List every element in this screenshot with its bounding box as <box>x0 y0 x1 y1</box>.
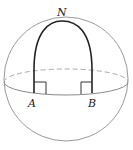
sphere-outline <box>4 17 128 141</box>
sphere-diagram: N A B <box>0 0 133 150</box>
right-angle-mark-b <box>81 82 92 94</box>
label-n: N <box>56 6 67 19</box>
right-angle-mark-a <box>34 82 46 94</box>
label-b: B <box>87 97 96 110</box>
label-a: A <box>27 97 36 110</box>
equator-back-dashed <box>4 69 128 82</box>
equator-front <box>4 82 128 95</box>
